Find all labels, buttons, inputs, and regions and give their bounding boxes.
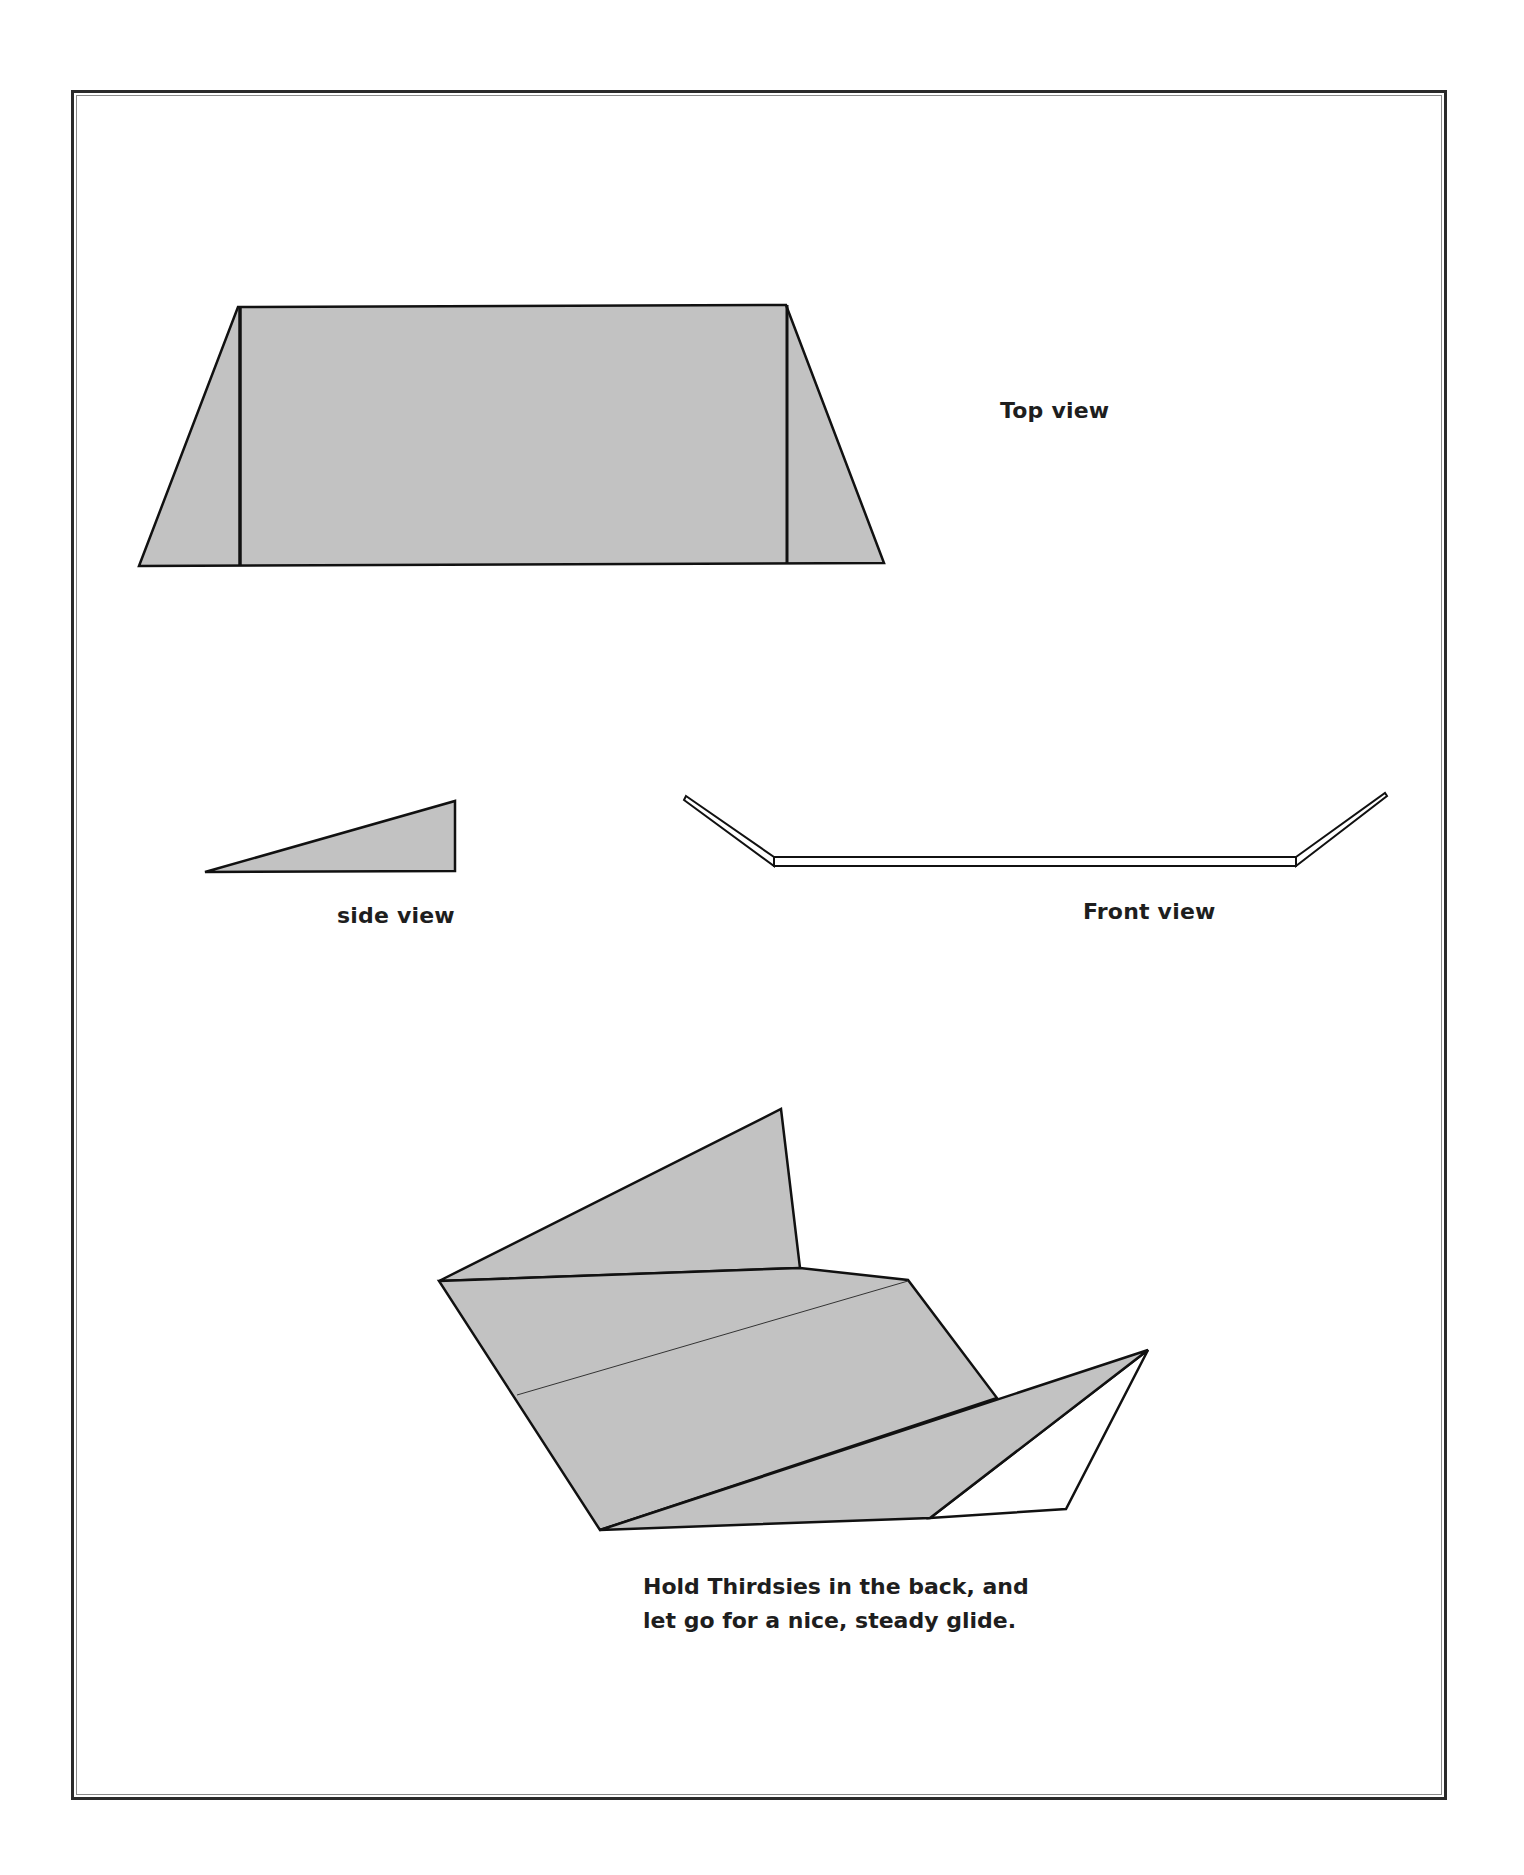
top-view-label: Top view [1000,398,1109,423]
airplane-top-wing [439,1109,800,1281]
side-view-triangle [205,801,455,872]
front-view-body [774,857,1296,866]
front-view-diagram [684,793,1387,866]
side-view-label: side view [337,903,455,928]
front-view-left-wing [684,796,774,866]
front-view-label: Front view [1083,899,1216,924]
caption-line-2: let go for a nice, steady glide. [643,1604,1029,1638]
glide-caption: Hold Thirdsies in the back, and let go f… [643,1570,1029,1638]
caption-line-1: Hold Thirdsies in the back, and [643,1570,1029,1604]
side-view-diagram [205,801,455,872]
glide-view-diagram [439,1109,1148,1530]
front-view-right-wing [1296,793,1387,866]
top-view-outline [139,305,884,566]
top-view-diagram [139,305,884,566]
